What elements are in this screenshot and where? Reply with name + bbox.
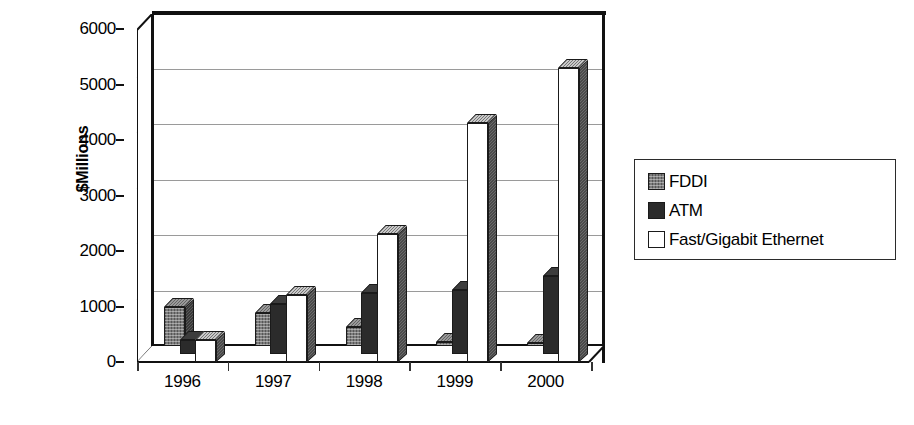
legend-item-fast-gigabit-ethernet[interactable]: Fast/Gigabit Ethernet bbox=[648, 225, 895, 254]
x-axis-label-2000: 2000 bbox=[503, 372, 589, 392]
legend-swatch-icon bbox=[648, 173, 665, 190]
y-tick-mark bbox=[116, 250, 124, 252]
x-tick-mark bbox=[500, 362, 502, 371]
plot-top-edge bbox=[152, 11, 606, 15]
bar-fast-gigabit-ethernet-1999 bbox=[467, 123, 488, 362]
y-tick-mark bbox=[116, 306, 124, 308]
y-tick-label: 1000 bbox=[44, 298, 116, 315]
legend-label: Fast/Gigabit Ethernet bbox=[669, 230, 823, 250]
legend-label: ATM bbox=[669, 201, 703, 221]
bar-face bbox=[195, 340, 216, 362]
bar-face bbox=[286, 295, 307, 362]
bar-fast-gigabit-ethernet-1998 bbox=[377, 234, 398, 362]
bar-fast-gigabit-ethernet-1996 bbox=[195, 340, 216, 362]
x-tick-mark bbox=[591, 362, 593, 371]
legend-label: FDDI bbox=[669, 172, 707, 192]
y-tick-mark bbox=[116, 28, 124, 30]
x-tick-mark bbox=[319, 362, 321, 371]
y-tick-mark bbox=[116, 195, 124, 197]
bar-face bbox=[377, 234, 398, 362]
bar-side bbox=[398, 226, 407, 362]
bar-fast-gigabit-ethernet-2000 bbox=[558, 68, 579, 362]
x-axis-label-1999: 1999 bbox=[412, 372, 498, 392]
legend-swatch-icon bbox=[648, 202, 665, 219]
x-axis-label-1998: 1998 bbox=[321, 372, 407, 392]
x-axis-label-1997: 1997 bbox=[230, 372, 316, 392]
y-tick-mark bbox=[116, 84, 124, 86]
bar-side bbox=[307, 287, 316, 362]
bar-side bbox=[488, 115, 497, 362]
bar-fast-gigabit-ethernet-1997 bbox=[286, 295, 307, 362]
y-tick-label: 5000 bbox=[44, 76, 116, 93]
bar-side bbox=[579, 60, 588, 362]
x-tick-mark bbox=[409, 362, 411, 371]
y-tick-label: 0 bbox=[44, 353, 116, 370]
x-tick-mark bbox=[137, 362, 139, 371]
legend-item-atm[interactable]: ATM bbox=[648, 196, 895, 225]
y-tick-mark bbox=[116, 361, 124, 363]
y-axis-title: $Millions bbox=[74, 94, 92, 224]
x-axis-label-1996: 1996 bbox=[139, 372, 225, 392]
y-tick-label: 4000 bbox=[44, 131, 116, 148]
bar-chart: $Millions 0100020003000400050006000 1996… bbox=[0, 0, 914, 425]
bar-face bbox=[558, 68, 579, 362]
y-tick-label: 3000 bbox=[44, 187, 116, 204]
legend-swatch-icon bbox=[648, 231, 665, 248]
chart-legend: FDDIATMFast/Gigabit Ethernet bbox=[634, 159, 896, 260]
bar-face bbox=[467, 123, 488, 362]
plot-right-edge bbox=[602, 13, 605, 363]
y-tick-mark bbox=[116, 139, 124, 141]
x-tick-mark bbox=[228, 362, 230, 371]
y-tick-label: 6000 bbox=[44, 20, 116, 37]
y-tick-label: 2000 bbox=[44, 242, 116, 259]
legend-item-fddi[interactable]: FDDI bbox=[648, 167, 895, 196]
